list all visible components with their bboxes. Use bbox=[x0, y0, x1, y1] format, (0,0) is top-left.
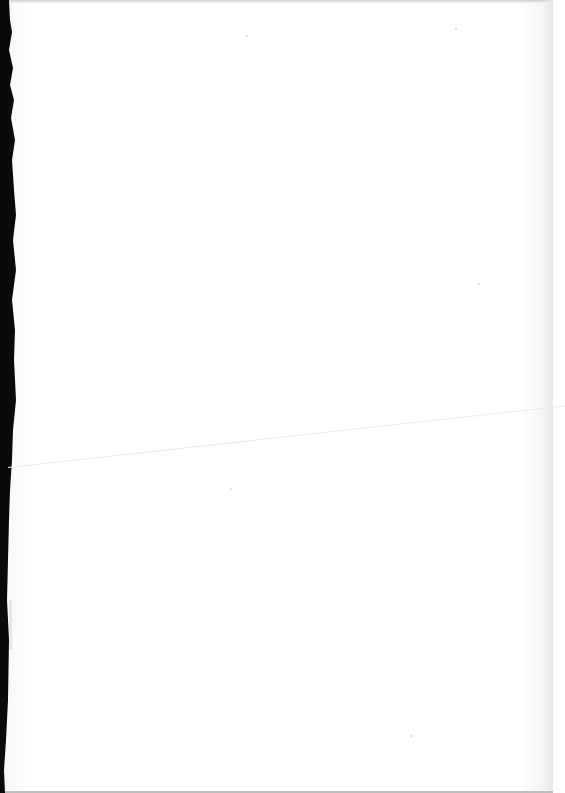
scan-speck bbox=[230, 488, 232, 490]
page-top-edge bbox=[0, 0, 553, 3]
scan-speck bbox=[410, 735, 412, 737]
scan-speck bbox=[246, 35, 248, 37]
scan-speck bbox=[478, 283, 480, 285]
torn-binding-edge bbox=[0, 0, 16, 793]
page-right-edge bbox=[543, 0, 553, 793]
scan-speck bbox=[455, 28, 457, 30]
page-crease bbox=[8, 406, 565, 468]
